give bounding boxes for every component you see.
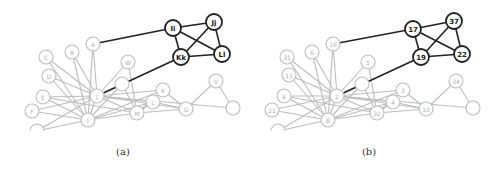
graph-node: B: [65, 45, 79, 59]
highlight-edges: [333, 21, 462, 96]
highlight-node: Ll: [214, 46, 230, 62]
svg-text:Ll: Ll: [219, 51, 226, 59]
svg-text:M: M: [134, 110, 139, 117]
highlight-edge: [93, 28, 173, 44]
caption-b: (b): [246, 146, 492, 157]
graph-node: 31: [280, 50, 294, 64]
graph-node: [115, 77, 129, 91]
svg-text:32: 32: [373, 110, 381, 117]
highlight-node: Jj: [206, 14, 222, 30]
svg-text:21: 21: [268, 107, 276, 114]
svg-text:3: 3: [401, 87, 405, 94]
svg-text:Jj: Jj: [210, 19, 216, 27]
highlight-node: 17: [405, 21, 421, 37]
svg-text:Ii: Ii: [170, 25, 175, 33]
edge: [278, 120, 328, 131]
graph-node: 11: [282, 68, 296, 82]
edge: [43, 96, 97, 97]
edge: [37, 120, 88, 131]
svg-text:9: 9: [282, 93, 286, 100]
graph-node: I: [81, 113, 95, 127]
svg-text:31: 31: [283, 54, 291, 61]
svg-text:10: 10: [422, 106, 430, 113]
graph-node: O: [179, 102, 193, 116]
svg-text:Kk: Kk: [176, 54, 186, 62]
svg-text:E: E: [41, 94, 45, 101]
graph-node: K: [156, 83, 170, 97]
panel-b: 16631115921283432103417371922: [246, 0, 492, 140]
graph-node: [226, 101, 240, 115]
highlight-node: 22: [454, 46, 470, 62]
graph-node: A: [86, 37, 100, 51]
edge: [93, 44, 97, 96]
graph-node: 4: [386, 95, 400, 109]
graph-b: 16631115921283432103417371922: [246, 0, 492, 140]
graph-node: 2: [330, 89, 344, 103]
svg-text:11: 11: [285, 72, 293, 79]
graph-node: 16: [326, 37, 340, 51]
graph-a: ABCDWEFJIKLMOVIiJjKkLl: [0, 0, 246, 140]
svg-text:4: 4: [391, 99, 395, 106]
clip-mask: [246, 131, 492, 140]
graph-node: 10: [419, 102, 433, 116]
svg-text:D: D: [47, 73, 52, 80]
svg-text:16: 16: [329, 41, 337, 48]
graph-node: F: [25, 104, 39, 118]
graph-node: [466, 101, 480, 115]
svg-text:5: 5: [366, 59, 370, 66]
graph-node: D: [42, 69, 56, 83]
svg-text:I: I: [87, 117, 89, 124]
svg-text:C: C: [44, 54, 48, 61]
graph-node: C: [39, 50, 53, 64]
svg-text:W: W: [125, 59, 131, 66]
graph-node: E: [36, 90, 50, 104]
svg-text:37: 37: [449, 18, 459, 26]
graph-node: 21: [265, 103, 279, 117]
graph-node: W: [121, 55, 135, 69]
edge: [312, 52, 337, 96]
graph-node: 5: [361, 55, 375, 69]
edge: [333, 44, 337, 96]
graph-node: 3: [396, 83, 410, 97]
graph-node: M: [130, 106, 144, 120]
highlight-node: Kk: [173, 49, 189, 65]
clip-mask: [0, 131, 246, 140]
svg-text:34: 34: [452, 78, 460, 85]
svg-text:J: J: [95, 93, 98, 101]
svg-text:8: 8: [326, 117, 330, 124]
caption-a: (a): [0, 146, 246, 157]
edge: [49, 76, 88, 120]
panel-a: ABCDWEFJIKLMOVIiJjKkLl: [0, 0, 246, 140]
highlight-edge: [333, 29, 413, 44]
graph-node: V: [209, 74, 223, 88]
highlight-node: 37: [446, 13, 462, 29]
svg-text:B: B: [70, 49, 74, 56]
edge: [287, 57, 328, 120]
svg-text:17: 17: [408, 26, 418, 34]
edge: [46, 57, 88, 120]
edge: [72, 52, 97, 96]
svg-text:2: 2: [335, 93, 339, 100]
highlight-node: Ii: [165, 20, 181, 36]
graph-node: 32: [370, 106, 384, 120]
graph-node: 9: [277, 89, 291, 103]
graph-node: J: [90, 89, 104, 103]
svg-text:F: F: [30, 108, 34, 115]
graph-node: 34: [449, 74, 463, 88]
svg-text:6: 6: [310, 49, 314, 56]
svg-text:19: 19: [416, 54, 426, 62]
graph-node: [355, 77, 369, 91]
graph-node: 6: [305, 45, 319, 59]
svg-text:22: 22: [457, 51, 467, 59]
graph-node: 8: [321, 113, 335, 127]
graph-node: L: [146, 95, 160, 109]
svg-text:O: O: [184, 106, 189, 113]
highlight-node: 19: [413, 49, 429, 65]
